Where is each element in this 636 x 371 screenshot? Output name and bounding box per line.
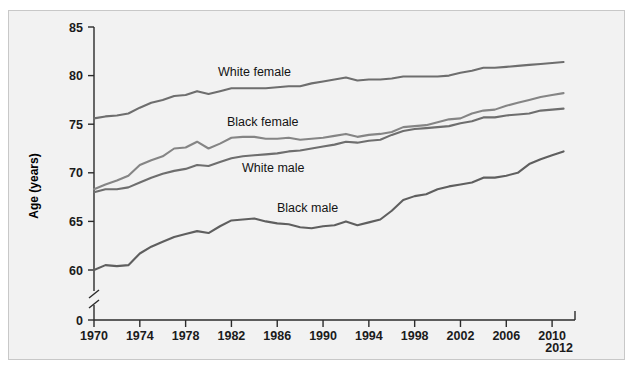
- y-axis-tick-label: 80: [69, 69, 83, 83]
- x-axis-tick-label: 1974: [126, 329, 154, 343]
- y-axis-tick-label: 60: [69, 264, 83, 278]
- x-axis-tick-label: 1986: [263, 329, 291, 343]
- x-axis-tick-label: 1994: [355, 329, 383, 343]
- y-axis-zero-label: 0: [76, 314, 83, 328]
- y-axis-tick-label: 65: [69, 215, 83, 229]
- series-label-white-female: White female: [218, 65, 291, 79]
- axes-group: 6065707580850Age (years)1970197419781982…: [27, 21, 575, 356]
- x-axis-tick-label: 1978: [172, 329, 200, 343]
- series-label-white-male: White male: [242, 161, 305, 175]
- series-line-black-female: [94, 93, 564, 189]
- series-label-black-male: Black male: [277, 201, 338, 215]
- y-axis-break-mark: [89, 290, 99, 298]
- y-axis-tick-label: 75: [69, 118, 83, 132]
- x-axis-tick-label: 1970: [80, 329, 108, 343]
- y-axis-title: Age (years): [27, 153, 41, 218]
- series-line-white-male: [94, 109, 564, 193]
- x-axis-tick-label: 2006: [492, 329, 520, 343]
- x-axis-tick-label: 1982: [218, 329, 246, 343]
- y-axis-tick-label: 70: [69, 166, 83, 180]
- x-axis-tick-label: 1990: [309, 329, 337, 343]
- x-axis-tick-label: 1998: [401, 329, 429, 343]
- series-group: [94, 62, 564, 270]
- x-axis-tick-label: 2012: [545, 341, 573, 355]
- x-axis-tick-label: 2002: [447, 329, 475, 343]
- figure-root: 6065707580850Age (years)1970197419781982…: [0, 0, 636, 371]
- y-axis-tick-label: 85: [69, 21, 83, 35]
- series-label-black-female: Black female: [227, 115, 299, 129]
- life-expectancy-line-chart: 6065707580850Age (years)1970197419781982…: [0, 0, 636, 371]
